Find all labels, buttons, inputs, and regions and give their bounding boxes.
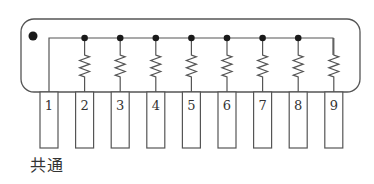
junction-dot (117, 35, 124, 42)
junction-dot (295, 35, 302, 42)
common-label: 共通 (30, 152, 64, 176)
pin-label: 2 (80, 98, 88, 113)
pins: 123456789 (40, 92, 343, 148)
resistors (80, 35, 339, 92)
pin1-marker-dot (29, 32, 38, 41)
resistor-5 (186, 38, 196, 92)
pin-label: 8 (294, 98, 302, 113)
package-body (21, 19, 360, 92)
junction-dot (259, 35, 266, 42)
pin-label: 9 (330, 98, 338, 113)
resistor-3 (115, 38, 125, 92)
junction-dot (153, 35, 160, 42)
pin-label: 7 (258, 98, 266, 113)
resistor-4 (151, 38, 161, 92)
junction-dot (224, 35, 231, 42)
pin-label: 4 (152, 98, 160, 113)
resistor-9 (329, 38, 339, 92)
junction-dot (81, 35, 88, 42)
resistor-8 (293, 38, 303, 92)
pin-label: 5 (187, 98, 195, 113)
junction-dot (188, 35, 195, 42)
resistor-6 (222, 38, 232, 92)
resistor-7 (258, 38, 268, 92)
pin-label: 1 (45, 98, 53, 113)
pin-label: 3 (116, 98, 124, 113)
pin-label: 6 (223, 98, 231, 113)
resistor-2 (80, 38, 90, 92)
